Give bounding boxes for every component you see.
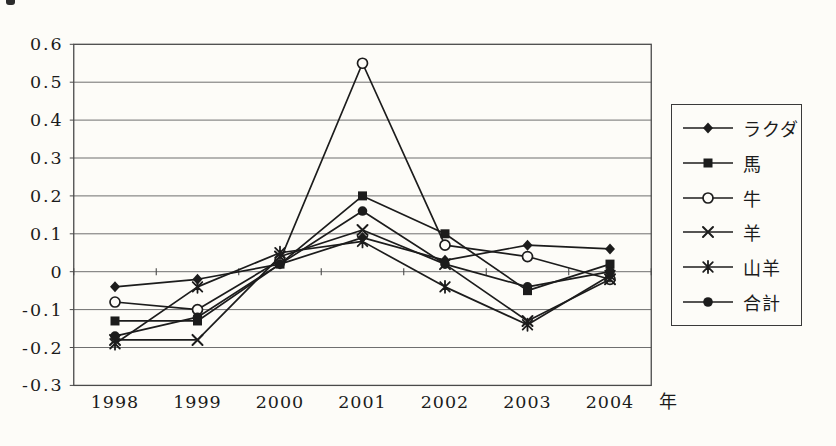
x-tick-label: 2000 [256, 392, 305, 412]
square-filled-marker-icon [704, 158, 713, 167]
x-tick-label: 2004 [586, 392, 635, 412]
legend-item-camel: ラクダ [682, 115, 801, 141]
legend-item-sheep: 羊 [682, 219, 801, 245]
legend-label-cattle: 牛 [743, 185, 762, 211]
circle-filled-marker-icon [440, 259, 450, 269]
x-tick-label: 2002 [421, 392, 470, 412]
horse-legend-marker-icon [682, 155, 734, 171]
camel-legend-marker-icon [682, 120, 734, 136]
asterisk-marker-icon [440, 281, 450, 293]
circle-filled-marker-icon [358, 206, 368, 216]
circle-filled-marker-icon [193, 312, 203, 322]
x-tick-label: 1999 [173, 392, 222, 412]
y-tick-label: 0.5 [30, 72, 64, 92]
x-tick-label: 2001 [338, 392, 387, 412]
goat-legend-marker-icon [682, 259, 734, 275]
series-line-goat [115, 241, 610, 343]
circle-open-marker-icon [523, 252, 533, 262]
legend-label-goat: 山羊 [743, 254, 781, 280]
x-tick-label: 2003 [503, 392, 552, 412]
square-filled-marker-icon [111, 316, 120, 325]
y-tick-label: 0.6 [30, 34, 64, 54]
legend-item-goat: 山羊 [682, 254, 801, 280]
legend-label-horse: 馬 [743, 150, 762, 176]
chart-legend: ラクダ馬牛羊山羊合計 [671, 104, 802, 326]
y-tick-label: -0.2 [22, 338, 64, 358]
diamond-filled-marker-icon [703, 123, 713, 134]
sheep-legend-marker-icon [682, 224, 734, 240]
circle-filled-marker-icon [605, 267, 615, 277]
x-tick-label: 1998 [91, 392, 140, 412]
legend-item-total: 合計 [682, 289, 801, 315]
asterisk-marker-icon [193, 281, 203, 293]
y-tick-label: 0 [51, 262, 64, 282]
legend-label-camel: ラクダ [743, 115, 799, 141]
cattle-legend-marker-icon [682, 190, 734, 206]
legend-label-sheep: 羊 [743, 219, 762, 245]
circle-open-marker-icon [358, 58, 368, 68]
diamond-filled-marker-icon [110, 281, 120, 292]
x-axis-unit-label: 年 [659, 391, 677, 412]
y-tick-label: 0.4 [30, 110, 64, 130]
circle-filled-marker-icon [703, 297, 713, 307]
square-filled-marker-icon [358, 191, 367, 200]
legend-item-cattle: 牛 [682, 185, 801, 211]
circle-filled-marker-icon [110, 331, 120, 341]
series-markers-goat [110, 235, 615, 349]
y-tick-label: 0.2 [30, 186, 64, 206]
series-markers-cattle [110, 58, 615, 314]
total-legend-marker-icon [682, 294, 734, 310]
y-tick-label: 0.1 [30, 224, 64, 244]
circle-filled-marker-icon [275, 259, 285, 269]
y-tick-label: 0.3 [30, 148, 64, 168]
legend-item-horse: 馬 [682, 150, 801, 176]
series-line-cattle [115, 63, 610, 309]
circle-filled-marker-icon [523, 282, 533, 292]
circle-open-marker-icon [440, 240, 450, 250]
y-tick-label: -0.1 [22, 300, 64, 320]
legend-label-total: 合計 [743, 289, 781, 315]
y-tick-label: -0.3 [22, 375, 64, 395]
circle-open-marker-icon [703, 193, 713, 203]
circle-open-marker-icon [110, 297, 120, 307]
diamond-filled-marker-icon [605, 243, 615, 254]
diamond-filled-marker-icon [523, 240, 533, 251]
